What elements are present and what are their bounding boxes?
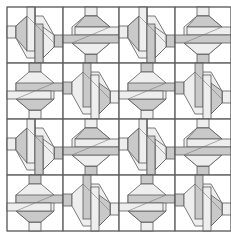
quilt-pattern (0, 0, 231, 246)
quilt-grid (7, 7, 231, 231)
